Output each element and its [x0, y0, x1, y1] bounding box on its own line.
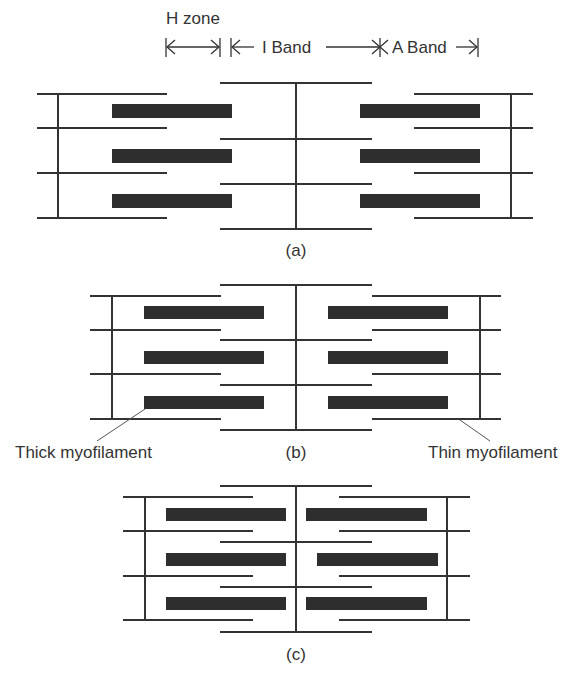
- h-zone-label: H zone: [166, 9, 220, 28]
- header-labels: H zone I Band A Band: [166, 9, 478, 57]
- a-band-label: A Band: [392, 38, 447, 57]
- caption-b: (b): [286, 443, 307, 462]
- thick-filaments-c: [166, 508, 438, 610]
- thin-leader: [460, 420, 490, 441]
- panel-c: (c): [123, 486, 470, 664]
- thin-myofilament-label: Thin myofilament: [428, 443, 558, 462]
- caption-a: (a): [286, 241, 307, 260]
- leader-lines-b: [97, 409, 490, 441]
- sarcomere-diagram: H zone I Band A Band: [0, 0, 588, 679]
- panel-b: Thick myofilament (b) Thin myofilament: [15, 285, 558, 462]
- i-band-label: I Band: [262, 38, 311, 57]
- panel-a: (a): [37, 83, 533, 260]
- thick-leader: [97, 409, 145, 441]
- thick-myofilament-label: Thick myofilament: [15, 443, 152, 462]
- caption-c: (c): [286, 645, 306, 664]
